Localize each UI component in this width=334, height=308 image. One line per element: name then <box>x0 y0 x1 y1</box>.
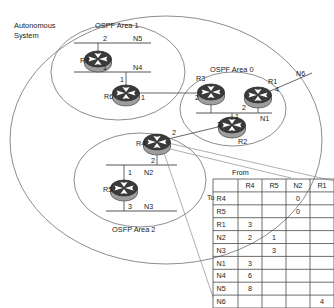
ospf-area-0-label: OSPF Area 0 <box>210 65 254 74</box>
routing-table: From To R4R5N2R1R40R50R13N221N33N13N46N5… <box>207 168 334 308</box>
cost-r6-top: 1 <box>120 75 124 84</box>
ospf-area-2-label: OSFP Area 2 <box>112 225 155 234</box>
table-column-header-r4: R4 <box>245 181 254 190</box>
table-cell-r4-n2: 0 <box>296 194 300 203</box>
network-label-n2: N2 <box>144 168 153 177</box>
network-label-n5: N5 <box>133 34 142 43</box>
cost-r4-bottom: 2 <box>151 156 155 165</box>
table-cell-r5-n2: 0 <box>296 207 300 216</box>
router-label-r5: R5 <box>103 185 112 194</box>
cost-r5-bottom: 3 <box>128 202 132 211</box>
network-label-n1: N1 <box>260 114 269 123</box>
table-row-header-r4: R4 <box>217 194 226 203</box>
table-column-header-n2: N2 <box>293 181 302 190</box>
cost-r1-right: 4 <box>275 85 279 94</box>
table-row-header-n1: N1 <box>217 259 226 268</box>
router-label-r2: R2 <box>238 137 247 146</box>
router-r5[interactable] <box>111 180 138 201</box>
router-r4[interactable] <box>144 134 171 155</box>
network-label-n4: N4 <box>133 63 142 72</box>
cost-r3-left: 2 <box>195 93 199 102</box>
router-r2[interactable] <box>219 117 246 138</box>
table-column-header-r5: R5 <box>269 181 278 190</box>
table-row-header-r1: R1 <box>217 220 226 229</box>
cost-r1-left: 2 <box>242 103 246 112</box>
cost-r7-bottom: 1 <box>103 63 107 72</box>
router-label-r3: R3 <box>196 74 205 83</box>
table-cell-n4-r4: 6 <box>248 271 252 280</box>
router-label-r7: R7 <box>80 56 89 65</box>
cost-r6-right: 1 <box>141 93 145 102</box>
cost-r7-top: 2 <box>103 34 107 43</box>
table-cell-n2-r4: 2 <box>248 233 252 242</box>
table-cell-n6-r1: 4 <box>320 297 324 306</box>
table-cell-n2-r5: 1 <box>272 233 276 242</box>
table-row-header-n5: N5 <box>217 284 226 293</box>
table-row-header-n3: N3 <box>217 246 226 255</box>
table-to-label: To <box>207 193 215 202</box>
table-from-label: From <box>232 168 249 177</box>
table-cell-n3-r5: 3 <box>272 246 276 255</box>
table-column-header-r1: R1 <box>317 181 326 190</box>
cost-r5-left: 1 <box>128 168 132 177</box>
table-cell-n5-r4: 8 <box>248 284 252 293</box>
table-row-header-n2: N2 <box>217 233 226 242</box>
cost-r4-right: 2 <box>172 128 176 137</box>
autonomous-system-label-line1: Autonomous <box>14 21 56 30</box>
network-label-n3: N3 <box>144 202 153 211</box>
router-r1[interactable] <box>245 87 272 108</box>
router-label-r4: R4 <box>136 139 145 148</box>
router-r6[interactable] <box>113 85 140 106</box>
network-label-n6: N6 <box>296 69 305 78</box>
cost-r2-left: 3 <box>217 120 221 129</box>
cost-r2-top: 1 <box>235 112 239 121</box>
table-cell-n1-r4: 3 <box>248 259 252 268</box>
ospf-network-diagram: Autonomous System OSPF Area 1 OSPF Area … <box>0 0 334 308</box>
router-label-r6: R6 <box>104 92 113 101</box>
table-cell-r1-r4: 3 <box>248 220 252 229</box>
ospf-area-1-label: OSPF Area 1 <box>95 21 139 30</box>
autonomous-system-label-line2: System <box>14 31 39 40</box>
table-row-header-n6: N6 <box>217 297 226 306</box>
table-row-header-r5: R5 <box>217 207 226 216</box>
router-r3[interactable] <box>198 84 225 105</box>
table-row-header-n4: N4 <box>217 271 226 280</box>
